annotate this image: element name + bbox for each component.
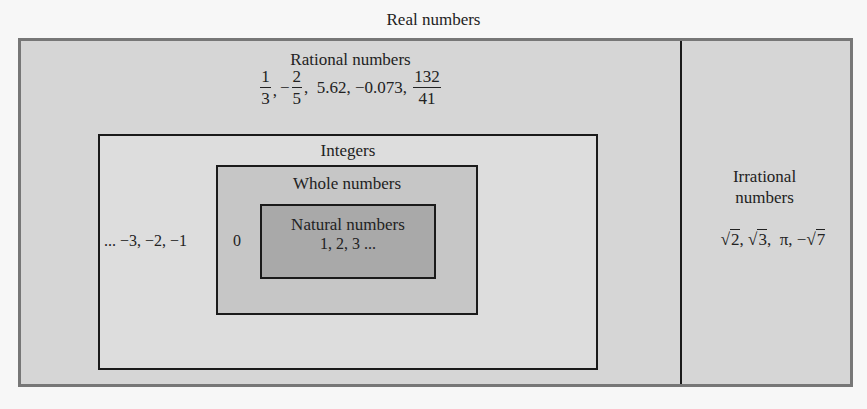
natural-numbers-label: Natural numbers (262, 215, 434, 235)
fraction-two-fifths: 2 5 (292, 68, 303, 107)
zero-value: 0 (233, 232, 241, 250)
fraction-one-third: 1 3 (260, 68, 271, 107)
natural-numbers-values: 1, 2, 3 ... (262, 235, 434, 253)
whole-numbers-label: Whole numbers (218, 174, 476, 194)
rational-numbers-label: Rational numbers (21, 50, 680, 70)
sqrt-3: √3 (748, 229, 767, 250)
irrational-examples: √2, √3, π, −√7 (682, 208, 847, 271)
irrational-label-line2: numbers (682, 187, 847, 208)
irrational-numbers-section: Irrational numbers √2, √3, π, −√7 (682, 166, 847, 271)
real-numbers-title: Real numbers (0, 10, 867, 30)
sqrt-icon: √ (721, 230, 730, 249)
negative-integers: ... −3, −2, −1 (104, 232, 187, 250)
rational-examples: 1 3 , − 2 5 , 5.62, −0.073, 132 41 (21, 68, 680, 107)
sqrt-icon: √ (806, 230, 815, 249)
sqrt-2: √2 (721, 229, 740, 250)
integers-label: Integers (100, 141, 596, 161)
sqrt-7: √7 (806, 229, 825, 250)
fraction-132-41: 132 41 (413, 68, 441, 107)
irrational-label-line1: Irrational (682, 166, 847, 187)
